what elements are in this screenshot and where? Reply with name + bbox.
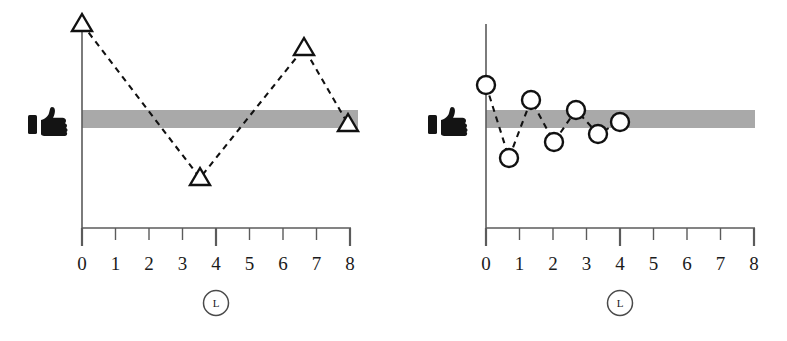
left-target-band: [82, 110, 358, 128]
thumbs-up-icon: [28, 107, 68, 136]
right-tick-label-2: 2: [548, 253, 558, 274]
left-series-markers: [72, 14, 358, 185]
right-marker-point-5: [567, 101, 585, 119]
right-chart-svg: 0 1 2 3 4 5 6 7 8: [400, 0, 787, 341]
left-tick-label-0: 0: [77, 253, 87, 274]
left-marker-point-2: [190, 168, 210, 185]
right-tick-label-4: 4: [615, 253, 625, 274]
right-marker-point-1: [477, 76, 495, 94]
dual-chart-figure: 0 1 2 3 4 5 6 7 8: [0, 0, 787, 341]
left-tick-label-4: 4: [211, 253, 221, 274]
right-tick-label-1: 1: [515, 253, 525, 274]
left-x-ticks: [82, 228, 350, 246]
right-tick-label-0: 0: [481, 253, 491, 274]
right-marker-point-6: [589, 125, 607, 143]
right-marker-point-2: [500, 149, 518, 167]
left-tick-label-3: 3: [178, 253, 188, 274]
right-axis-symbol: L: [608, 291, 633, 316]
left-tick-label-2: 2: [144, 253, 154, 274]
right-tick-label-7: 7: [716, 253, 726, 274]
left-marker-point-3: [294, 38, 314, 55]
left-tick-label-7: 7: [312, 253, 322, 274]
left-tick-label-5: 5: [245, 253, 255, 274]
right-chart-panel: 0 1 2 3 4 5 6 7 8: [400, 0, 787, 341]
right-x-tick-labels: 0 1 2 3 4 5 6 7 8: [481, 253, 759, 274]
left-marker-point-1: [72, 14, 92, 31]
left-chart-panel: 0 1 2 3 4 5 6 7 8: [0, 0, 400, 341]
right-tick-label-3: 3: [582, 253, 592, 274]
right-tick-label-5: 5: [649, 253, 659, 274]
left-tick-label-1: 1: [111, 253, 121, 274]
left-tick-label-6: 6: [278, 253, 288, 274]
right-axis-symbol-letter: L: [617, 297, 624, 309]
left-chart-svg: 0 1 2 3 4 5 6 7 8: [0, 0, 400, 341]
right-tick-label-6: 6: [682, 253, 692, 274]
thumbs-up-icon: [428, 107, 468, 136]
right-tick-label-8: 8: [749, 253, 759, 274]
right-marker-point-7: [611, 113, 629, 131]
left-axis-symbol: L: [204, 291, 229, 316]
left-axis-symbol-letter: L: [213, 297, 220, 309]
left-x-tick-labels: 0 1 2 3 4 5 6 7 8: [77, 253, 355, 274]
right-x-ticks: [486, 228, 754, 246]
left-tick-label-8: 8: [345, 253, 355, 274]
right-marker-point-4: [545, 133, 563, 151]
right-marker-point-3: [522, 91, 540, 109]
